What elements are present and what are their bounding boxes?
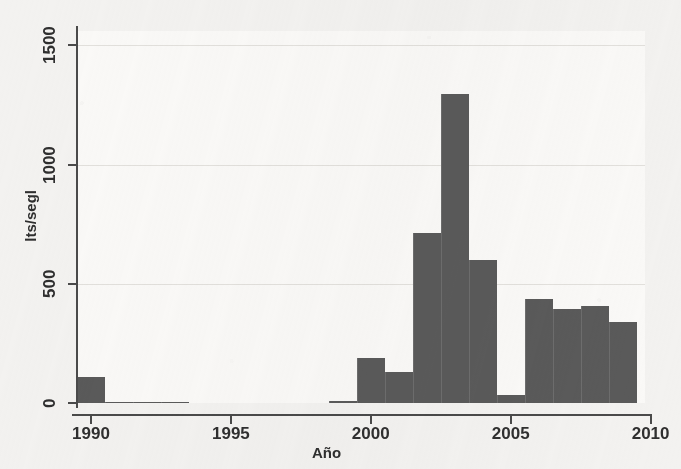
plot-area bbox=[77, 31, 645, 403]
chart-figure: 050010001500 19901995200020052010 lts/se… bbox=[0, 0, 681, 469]
x-axis-title: Año bbox=[0, 444, 681, 461]
bar-2003 bbox=[441, 94, 469, 403]
bar-1993 bbox=[161, 402, 189, 404]
y-axis-title: lts/segl bbox=[22, 190, 39, 242]
y-axis-line bbox=[76, 26, 78, 408]
y-tick bbox=[68, 283, 77, 285]
x-tick bbox=[90, 415, 92, 424]
bar-2009 bbox=[609, 322, 637, 403]
gridline bbox=[77, 284, 645, 285]
bar-2007 bbox=[553, 309, 581, 403]
bar-2008 bbox=[581, 306, 609, 403]
x-tick-label: 2000 bbox=[331, 424, 411, 444]
gridline bbox=[77, 165, 645, 166]
bar-2002 bbox=[413, 233, 441, 404]
bar-1999 bbox=[329, 401, 357, 403]
bar-1992 bbox=[133, 402, 161, 404]
bar-2001 bbox=[385, 372, 413, 403]
x-tick-label: 1995 bbox=[191, 424, 271, 444]
x-tick bbox=[650, 415, 652, 424]
x-axis-title-text: Año bbox=[312, 444, 341, 461]
x-tick-label: 2005 bbox=[471, 424, 551, 444]
gridline bbox=[77, 45, 645, 46]
x-tick bbox=[370, 415, 372, 424]
y-tick-label: 500 bbox=[40, 258, 60, 310]
x-tick bbox=[230, 415, 232, 424]
x-axis-line bbox=[72, 414, 652, 416]
bar-1990 bbox=[77, 377, 105, 403]
y-tick-label: 1000 bbox=[40, 139, 60, 191]
bar-1991 bbox=[105, 402, 133, 404]
y-tick bbox=[68, 164, 77, 166]
y-tick bbox=[68, 402, 77, 404]
y-tick-label: 1500 bbox=[40, 19, 60, 71]
x-tick bbox=[510, 415, 512, 424]
bar-2000 bbox=[357, 358, 385, 403]
bar-2005 bbox=[497, 395, 525, 403]
bar-2006 bbox=[525, 299, 553, 403]
x-tick-label: 1990 bbox=[51, 424, 131, 444]
x-tick-label: 2010 bbox=[611, 424, 681, 444]
y-tick-label: 0 bbox=[40, 377, 60, 429]
bar-2004 bbox=[469, 260, 497, 403]
y-tick bbox=[68, 44, 77, 46]
